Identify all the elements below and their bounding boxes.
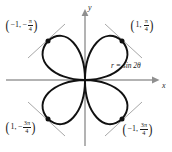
point-label-top-right: ( 1, π 4 ) — [130, 18, 154, 32]
point-label-bottom-right: ( −1, 3π 4 ) — [122, 122, 153, 136]
radius-value: −1, — [10, 21, 23, 29]
y-axis-label-text: y — [88, 3, 92, 12]
theta-fraction: 3π 4 — [140, 122, 148, 136]
radius-value: 1, — [135, 21, 143, 29]
equation-label-text: r = sin 2θ — [111, 61, 141, 70]
polar-rose-figure: y x r = sin 2θ ( −1, − π 4 ) ( 1, π — [0, 0, 172, 152]
theta-numerator: 3π — [140, 122, 147, 129]
left-paren: ( — [6, 20, 10, 31]
coordinate-pair: ( −1, 3π 4 ) — [122, 122, 153, 136]
coordinate-pair: ( 1, π 4 ) — [130, 18, 154, 32]
y-axis-label: y — [88, 4, 92, 12]
theta-fraction: π 4 — [143, 18, 149, 32]
left-paren: ( — [131, 20, 135, 31]
x-axis-label-text: x — [162, 81, 166, 90]
left-paren: ( — [6, 122, 10, 133]
radius-value: −1, — [127, 125, 140, 133]
petal-tip-marker-bottom-left — [46, 117, 51, 122]
petal-tip-marker-top-left — [46, 39, 51, 44]
theta-denominator: 4 — [25, 128, 29, 135]
theta-numerator: π — [28, 18, 32, 25]
theta-fraction: 3π 4 — [23, 120, 31, 134]
equation-label: r = sin 2θ — [111, 62, 141, 70]
coordinate-pair: ( 1, − 3π 4 ) — [5, 120, 36, 134]
right-paren: ) — [149, 124, 153, 135]
theta-denominator: 4 — [142, 130, 146, 137]
radius-value: 1, — [10, 123, 18, 131]
right-paren: ) — [34, 20, 38, 31]
petal-tip-marker-top-right — [120, 39, 125, 44]
x-axis-label: x — [162, 82, 166, 90]
theta-numerator: 3π — [23, 120, 30, 127]
coordinate-pair: ( −1, − π 4 ) — [5, 18, 38, 32]
left-paren: ( — [123, 124, 127, 135]
right-paren: ) — [32, 122, 36, 133]
right-paren: ) — [150, 20, 154, 31]
point-label-bottom-left: ( 1, − 3π 4 ) — [5, 120, 36, 134]
theta-denominator: 4 — [28, 26, 32, 33]
point-label-top-left: ( −1, − π 4 ) — [5, 18, 38, 32]
theta-fraction: π 4 — [27, 18, 33, 32]
theta-denominator: 4 — [144, 26, 148, 33]
x-axis-arrowhead — [152, 77, 160, 84]
theta-numerator: π — [144, 18, 148, 25]
